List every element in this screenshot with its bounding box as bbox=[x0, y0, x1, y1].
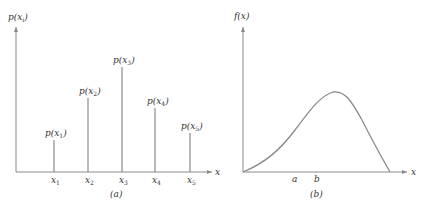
panel-b-y-axis-label: f(x) bbox=[233, 11, 250, 21]
tick-label-x2: x2 bbox=[85, 175, 94, 186]
figure: p(xi) x p(x1) p(x2) p(x3) p(x4) p(x5) x1… bbox=[0, 0, 427, 207]
stem-label-x2: p(x2) bbox=[79, 86, 101, 97]
panel-b-x-axis-label: x bbox=[411, 167, 416, 177]
panel-b-caption: (b) bbox=[310, 189, 323, 199]
stem-label-x1: p(x1) bbox=[45, 128, 67, 139]
tick-label-a: a bbox=[292, 174, 297, 184]
panel-b-continuous-distribution: f(x) x a b (b) bbox=[233, 11, 416, 199]
panel-a-y-axis-label: p(xi) bbox=[8, 12, 28, 23]
tick-label-x3: x3 bbox=[119, 175, 128, 186]
stem-label-x3: p(x3) bbox=[113, 55, 135, 66]
stem-label-x5: p(x5) bbox=[181, 121, 203, 132]
tick-label-x4: x4 bbox=[152, 175, 161, 186]
stem-label-x4: p(x4) bbox=[147, 96, 169, 107]
tick-label-x5: x5 bbox=[187, 175, 196, 186]
density-curve bbox=[243, 92, 390, 172]
panel-a-x-axis-label: x bbox=[215, 167, 220, 177]
tick-label-x1: x1 bbox=[51, 175, 60, 186]
panel-a-caption: (a) bbox=[110, 189, 123, 199]
panel-a-discrete-distribution: p(xi) x p(x1) p(x2) p(x3) p(x4) p(x5) x1… bbox=[8, 12, 220, 199]
tick-label-b: b bbox=[314, 174, 320, 184]
